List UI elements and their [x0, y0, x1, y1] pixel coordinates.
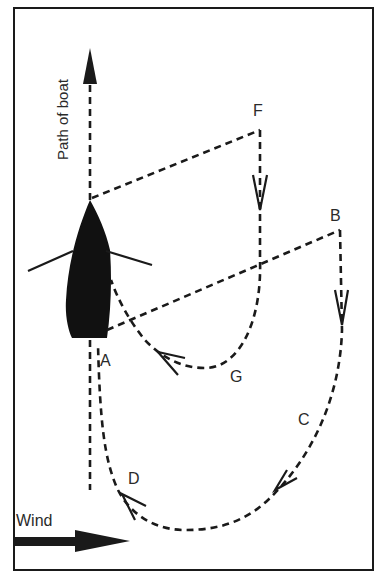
sail-left: [28, 251, 73, 271]
line-bow-to-f: [92, 130, 260, 198]
path-arrowhead-icon: [83, 48, 97, 84]
point-a-label: A: [100, 352, 111, 369]
path-of-boat-label: Path of boat: [54, 78, 71, 160]
boat-hull-icon: [66, 200, 111, 338]
point-g-label: G: [230, 368, 242, 385]
arrow-g-icon: [158, 352, 185, 375]
point-f-label: F: [253, 102, 263, 119]
point-d-label: D: [128, 470, 140, 487]
line-stern-to-b: [107, 230, 340, 330]
point-b-label: B: [330, 207, 341, 224]
sail-right: [106, 251, 152, 265]
wind-label: Wind: [16, 512, 52, 529]
arrow-d-icon: [122, 494, 146, 520]
man-overboard-diagram: Path of boat Wind A B C D F G: [0, 0, 375, 582]
path-f-g: [111, 130, 260, 368]
boat-path: [83, 48, 97, 200]
point-c-label: C: [298, 411, 310, 428]
wind-arrow-icon: [14, 530, 130, 552]
